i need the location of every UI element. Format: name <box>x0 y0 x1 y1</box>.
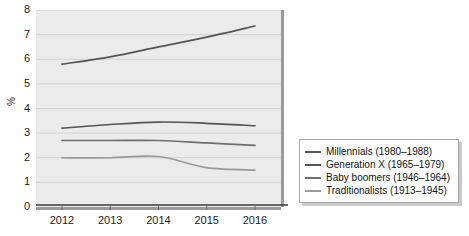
line-chart: % 876543210 20122013201420152016 Millenn… <box>0 0 469 236</box>
series-line <box>62 122 255 128</box>
legend-item-label: Baby boomers (1946–1964) <box>326 171 450 184</box>
legend-item-label: Millennials (1980–1988) <box>326 145 432 158</box>
x-axis <box>36 203 288 213</box>
legend-line-icon <box>305 190 321 192</box>
legend-item-label: Generation X (1965–1979) <box>326 158 444 171</box>
y-axis-tick-label: 6 <box>14 53 30 64</box>
series-line <box>62 140 255 145</box>
y-axis-tick-label: 2 <box>14 152 30 163</box>
legend-item-label: Traditionalists (1913–1945) <box>326 184 447 197</box>
series-lines <box>62 26 255 170</box>
legend-line-icon <box>305 177 321 179</box>
x-axis-tick-label: 2013 <box>90 215 130 226</box>
y-axis-tick-label: 7 <box>14 29 30 40</box>
x-axis-tick-label: 2014 <box>139 215 179 226</box>
legend-item[interactable]: Traditionalists (1913–1945) <box>305 184 454 197</box>
series-line <box>62 26 255 64</box>
plot-area <box>36 10 281 207</box>
y-axis-tick-label: 8 <box>14 4 30 15</box>
legend-item[interactable]: Generation X (1965–1979) <box>305 158 454 171</box>
legend-line-icon <box>305 164 321 166</box>
legend: Millennials (1980–1988)Generation X (196… <box>299 139 459 203</box>
y-axis-tick-label: 1 <box>14 176 30 187</box>
y-axis-tick-label: 0 <box>14 201 30 212</box>
gridlines <box>36 10 281 207</box>
legend-item[interactable]: Millennials (1980–1988) <box>305 145 454 158</box>
legend-item[interactable]: Baby boomers (1946–1964) <box>305 171 454 184</box>
y-axis-tick-label: 4 <box>14 103 30 114</box>
x-axis-tick-label: 2012 <box>42 215 82 226</box>
x-axis-tick-label: 2016 <box>235 215 275 226</box>
x-axis-tick-label: 2015 <box>187 215 227 226</box>
y-axis-tick-label: 5 <box>14 78 30 89</box>
legend-line-icon <box>305 151 321 153</box>
y-axis-tick-label: 3 <box>14 127 30 138</box>
